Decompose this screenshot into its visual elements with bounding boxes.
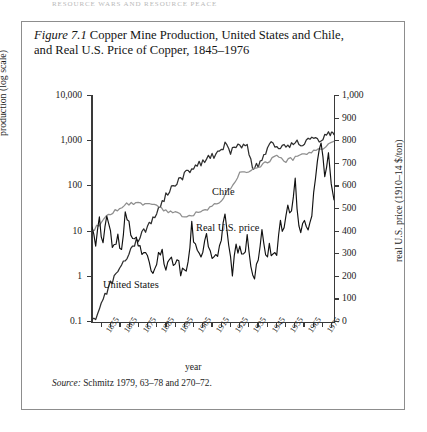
y-tick-right-200 <box>334 276 339 277</box>
x-tick-1850 <box>101 322 102 327</box>
series-label-chile: Chile <box>212 186 235 197</box>
x-axis-title: year <box>185 361 202 372</box>
source-text: Schmitz 1979, 63–78 and 270–72. <box>83 378 212 388</box>
y-axis-right-title: real U.S. price (1910–14 $/ton) <box>393 112 404 262</box>
series-line-real-us-price <box>92 143 334 279</box>
y-tick-right-800 <box>334 140 339 141</box>
y-tick-right-500 <box>334 208 339 209</box>
y-label-left-1: 1 <box>77 271 82 281</box>
y-label-right-300: 300 <box>342 248 356 258</box>
y-tick-right-600 <box>334 185 339 186</box>
y-label-right-800: 800 <box>342 135 356 145</box>
y-tick-left-1 <box>87 276 92 277</box>
y-label-right-900: 900 <box>342 113 356 123</box>
y-tick-left-1000 <box>87 140 92 141</box>
y-label-left-10: 10 <box>72 226 82 236</box>
y-tick-right-100 <box>334 298 339 299</box>
y-label-right-400: 400 <box>342 226 356 236</box>
y-label-right-700: 700 <box>342 158 356 168</box>
y-label-left-10000: 10,000 <box>56 90 82 100</box>
y-tick-right-1000 <box>334 95 339 96</box>
y-label-right-500: 500 <box>342 203 356 213</box>
y-label-right-600: 600 <box>342 180 356 190</box>
source-note: Source: Schmitz 1979, 63–78 and 270–72. <box>52 378 212 388</box>
y-label-left-100: 100 <box>68 180 82 190</box>
y-tick-left-0.1 <box>87 321 92 322</box>
y-tick-right-700 <box>334 163 339 164</box>
figure-title: Figure 7.1 Copper Mine Production, Unite… <box>34 28 344 57</box>
y-label-right-1000: 1,000 <box>342 90 364 100</box>
y-tick-right-300 <box>334 253 339 254</box>
y-tick-right-400 <box>334 231 339 232</box>
y-axis-left-title: production (log scale) <box>0 28 8 158</box>
y-label-right-0: 0 <box>342 316 347 326</box>
y-tick-left-100 <box>87 185 92 186</box>
source-label: Source: <box>52 378 81 388</box>
y-label-right-200: 200 <box>342 271 356 281</box>
y-label-left-1000: 1,000 <box>60 135 82 145</box>
page-running-head: resource wars and resource peace <box>52 0 382 9</box>
y-label-left-0.1: 0.1 <box>70 316 82 326</box>
y-tick-left-10 <box>87 231 92 232</box>
y-label-right-100: 100 <box>342 293 356 303</box>
series-label-real-us-price: Real U.S. price <box>196 222 259 233</box>
y-tick-left-10000 <box>87 95 92 96</box>
y-tick-right-900 <box>334 118 339 119</box>
figure-number: Figure 7.1 <box>34 28 87 42</box>
series-label-united-states: United States <box>103 279 159 290</box>
